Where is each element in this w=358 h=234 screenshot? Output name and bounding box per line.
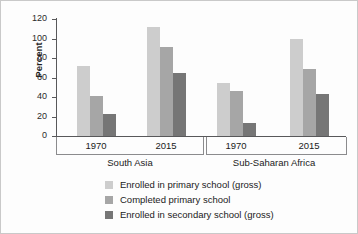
legend-label: Enrolled in secondary school (gross) [120,210,274,220]
x-tick-label: 2015 [136,140,196,151]
y-tick-label: 60 [37,72,47,82]
bar [147,27,160,136]
plot-area [56,19,346,136]
bar [217,83,230,136]
bar [90,96,103,136]
y-tick-label: 120 [32,13,47,23]
y-tick: 120 [1,19,56,20]
chart-figure: Percent 020406080100120 1970201519702015… [0,0,358,234]
legend-swatch [105,211,113,219]
x-tick-label: 2015 [279,140,339,151]
y-tick-label: 100 [32,33,47,43]
legend-swatch [105,181,113,189]
chart-legend: Enrolled in primary school (gross)Comple… [105,177,315,222]
group-label: Sub-Saharan Africa [204,157,344,168]
y-tick: 100 [1,39,56,40]
y-tick-label: 20 [37,111,47,121]
y-tick-label: 0 [42,130,47,140]
group-rule [56,154,203,155]
legend-label: Completed primary school [120,195,230,205]
x-axis-line [56,136,346,137]
bar [77,66,90,136]
x-tick-label: 1970 [66,140,126,151]
bar [230,91,243,136]
legend-item[interactable]: Enrolled in primary school (gross) [105,177,315,192]
bar [173,73,186,136]
group-separator [203,137,204,155]
y-tick: 20 [1,117,56,118]
legend-item[interactable]: Completed primary school [105,192,315,207]
group-separator [56,137,57,155]
group-rule [206,154,346,155]
legend-label: Enrolled in primary school (gross) [120,180,262,190]
bar [243,123,256,136]
y-tick-label: 80 [37,52,47,62]
y-tick: 60 [1,78,56,79]
bar [316,94,329,136]
y-tick: 80 [1,58,56,59]
y-tick: 40 [1,97,56,98]
x-tick-label: 1970 [206,140,266,151]
group-separator [346,137,347,155]
legend-swatch [105,196,113,204]
y-tick: 0 [1,136,56,137]
bar [160,47,173,136]
legend-item[interactable]: Enrolled in secondary school (gross) [105,207,315,222]
y-tick-label: 40 [37,91,47,101]
bar [103,114,116,136]
group-label: South Asia [60,157,200,168]
bar [290,39,303,137]
bar [303,69,316,136]
group-separator [206,137,207,155]
